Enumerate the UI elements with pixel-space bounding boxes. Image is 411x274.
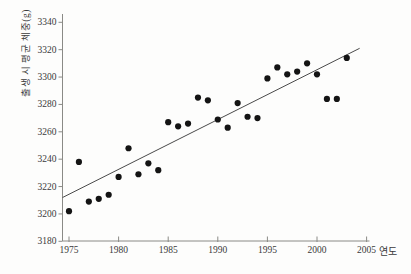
- data-point: [314, 71, 320, 77]
- data-point: [254, 115, 260, 121]
- data-point: [125, 145, 131, 151]
- y-tick-label: 3220: [38, 182, 57, 192]
- data-point: [294, 68, 300, 74]
- data-point: [155, 167, 161, 173]
- y-tick-label: 3340: [38, 17, 57, 27]
- y-tick-label: 3320: [38, 45, 57, 55]
- data-point: [344, 55, 350, 61]
- trend-line: [63, 48, 360, 197]
- y-tick-label: 3200: [38, 209, 57, 219]
- x-tick-label: 2000: [308, 245, 327, 255]
- data-point: [244, 114, 250, 120]
- y-tick-label: 3240: [38, 154, 57, 164]
- data-point: [185, 120, 191, 126]
- data-point: [86, 199, 92, 205]
- x-axis-title: 연도: [379, 243, 397, 258]
- data-point: [96, 196, 102, 202]
- data-point: [334, 96, 340, 102]
- data-point: [235, 100, 241, 106]
- data-point: [264, 75, 270, 81]
- data-point: [66, 208, 72, 214]
- data-point: [165, 119, 171, 125]
- scatter-plot-canvas: 3180320032203240326032803300332033401975…: [0, 0, 411, 274]
- birth-weight-scatter-figure: 3180320032203240326032803300332033401975…: [0, 0, 411, 274]
- y-tick-label: 3260: [38, 127, 57, 137]
- y-axis-title: 출생 시 평균 체중(g): [18, 9, 32, 97]
- x-tick-label: 1975: [60, 245, 79, 255]
- data-point: [284, 71, 290, 77]
- data-point: [106, 192, 112, 198]
- x-tick-label: 1995: [258, 245, 277, 255]
- data-point: [195, 94, 201, 100]
- x-tick-label: 1980: [109, 245, 128, 255]
- x-tick-label: 1990: [208, 245, 227, 255]
- x-tick-label: 1985: [159, 245, 178, 255]
- y-tick-label: 3300: [38, 72, 57, 82]
- data-point: [135, 171, 141, 177]
- data-point: [274, 64, 280, 70]
- data-point: [145, 160, 151, 166]
- data-point: [116, 174, 122, 180]
- data-point: [304, 60, 310, 66]
- y-tick-label: 3280: [38, 99, 57, 109]
- data-point: [215, 116, 221, 122]
- y-tick-label: 3180: [38, 236, 57, 246]
- data-point: [76, 159, 82, 165]
- data-point: [225, 125, 231, 131]
- data-point: [324, 96, 330, 102]
- x-tick-label: 2005: [357, 245, 376, 255]
- data-point: [175, 123, 181, 129]
- data-point: [205, 97, 211, 103]
